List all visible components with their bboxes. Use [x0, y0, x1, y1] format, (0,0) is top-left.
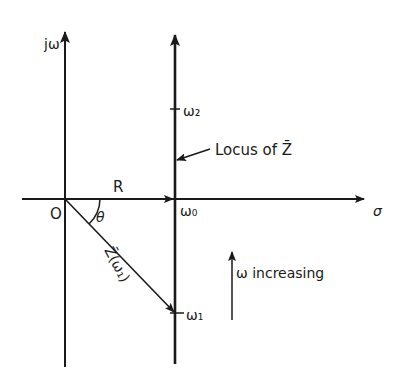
theta-label: θ [96, 209, 105, 225]
omega-increasing-label: ω increasing [236, 265, 324, 281]
origin-label: O [50, 205, 62, 223]
impedance-locus-diagram: jω σ O R θ ω₀ ω₁ ω₂ Locus of Z̄ ω increa… [0, 0, 407, 392]
r-label: R [113, 178, 123, 196]
omega1-label: ω₁ [186, 307, 203, 323]
sigma-axis-label: σ [373, 203, 383, 219]
omega0-label: ω₀ [180, 203, 198, 219]
omega2-label: ω₂ [183, 103, 200, 119]
locus-label: Locus of Z̄ [215, 140, 292, 159]
jw-axis-label: jω [43, 36, 60, 52]
locus-pointer-arrow [177, 149, 210, 160]
